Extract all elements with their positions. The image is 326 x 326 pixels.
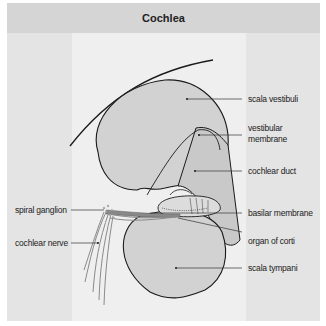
label-organ-of-corti: organ of corti xyxy=(248,236,295,246)
label-spiral-ganglion: spiral ganglion xyxy=(15,205,67,215)
label-basilar-membrane: basilar membrane xyxy=(248,208,313,218)
label-scala-tympani: scala tympani xyxy=(248,263,297,273)
label-vestibular-membrane-line1: vestibular xyxy=(248,123,282,133)
label-cochlear-duct: cochlear duct xyxy=(248,166,296,176)
label-vestibular-membrane-line2: membrane xyxy=(248,134,287,144)
label-cochlear-nerve: cochlear nerve xyxy=(15,238,68,248)
cochlea-illustration xyxy=(0,0,326,326)
scala-tympani-shape xyxy=(123,211,225,298)
label-scala-vestibuli: scala vestibuli xyxy=(248,94,298,104)
